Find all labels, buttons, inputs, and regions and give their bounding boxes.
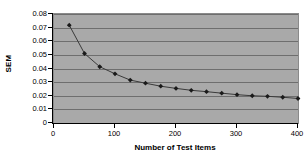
y-axis-tick bbox=[48, 54, 52, 55]
plot-area bbox=[53, 13, 299, 124]
y-axis-line bbox=[52, 13, 53, 123]
y-tick-label: 0.03 bbox=[32, 77, 47, 86]
y-tick-label: 0 bbox=[43, 118, 47, 127]
data-series-sem bbox=[54, 14, 298, 123]
chart-container: SEM 00.010.020.030.040.050.060.070.08 01… bbox=[0, 0, 308, 158]
x-tick-label: 0 bbox=[51, 129, 55, 138]
data-point-marker bbox=[113, 71, 118, 76]
data-point-marker bbox=[265, 94, 270, 99]
y-axis-tick bbox=[48, 95, 52, 96]
data-point-marker bbox=[189, 88, 194, 93]
data-point-marker bbox=[296, 96, 301, 101]
x-axis-tick bbox=[53, 124, 54, 128]
x-axis-tick bbox=[114, 124, 115, 128]
x-axis-tick bbox=[175, 124, 176, 128]
y-axis-title-label: SEM bbox=[5, 54, 14, 72]
y-tick-label: 0.04 bbox=[32, 63, 47, 72]
x-axis-tick bbox=[297, 124, 298, 128]
x-axis-tick bbox=[236, 124, 237, 128]
y-tick-label: 0.07 bbox=[32, 22, 47, 31]
data-point-marker bbox=[67, 23, 72, 28]
series-line bbox=[69, 25, 298, 98]
y-tick-label: 0.02 bbox=[32, 90, 47, 99]
data-point-marker bbox=[219, 91, 224, 96]
y-axis-tick bbox=[48, 108, 52, 109]
x-tick-label: 400 bbox=[291, 129, 304, 138]
y-axis-tick bbox=[48, 27, 52, 28]
y-axis-tick-labels: 00.010.020.030.040.050.060.070.08 bbox=[18, 13, 51, 122]
data-point-marker bbox=[280, 95, 285, 100]
x-tick-label: 300 bbox=[230, 129, 243, 138]
data-point-marker bbox=[235, 92, 240, 97]
data-point-marker bbox=[204, 89, 209, 94]
data-point-marker bbox=[250, 93, 255, 98]
x-tick-label: 100 bbox=[108, 129, 121, 138]
y-tick-label: 0.06 bbox=[32, 36, 47, 45]
y-tick-label: 0.08 bbox=[32, 9, 47, 18]
x-axis-title: Number of Test Items bbox=[53, 143, 297, 152]
y-tick-label: 0.01 bbox=[32, 104, 47, 113]
data-point-marker bbox=[174, 86, 179, 91]
y-axis-tick bbox=[48, 40, 52, 41]
y-axis-title: SEM bbox=[0, 0, 18, 126]
y-tick-label: 0.05 bbox=[32, 49, 47, 58]
data-point-marker bbox=[158, 84, 163, 89]
y-axis-tick bbox=[48, 81, 52, 82]
y-axis-tick bbox=[48, 122, 52, 123]
y-axis-tick bbox=[48, 13, 52, 14]
data-point-marker bbox=[128, 78, 133, 83]
y-axis-tick bbox=[48, 68, 52, 69]
data-point-marker bbox=[143, 81, 148, 86]
x-tick-label: 200 bbox=[169, 129, 182, 138]
